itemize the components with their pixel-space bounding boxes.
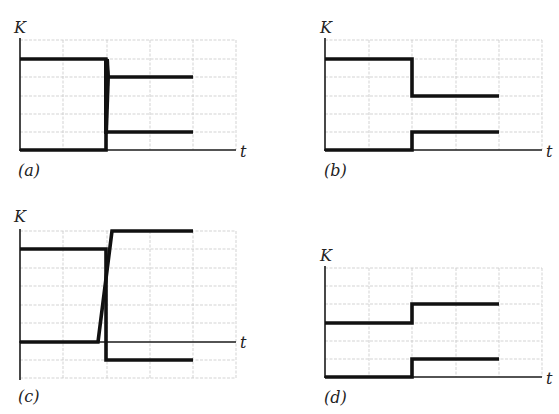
panel-a-transition-fill bbox=[104, 59, 110, 134]
panel-c-grid bbox=[20, 231, 236, 378]
panel-a-y-label: K bbox=[13, 18, 27, 37]
panel-a-curve-2 bbox=[20, 132, 193, 150]
panel-b: K t (b) bbox=[319, 18, 553, 180]
panel-a-caption: (a) bbox=[18, 161, 40, 180]
panel-c-x-label: t bbox=[240, 333, 247, 352]
panel-c-y-label: K bbox=[13, 207, 27, 226]
panel-b-caption: (b) bbox=[324, 161, 347, 180]
panel-d-curve-1 bbox=[325, 304, 499, 323]
panel-d-x-label: t bbox=[546, 369, 553, 388]
panel-d-curve-2 bbox=[325, 359, 499, 377]
panel-a: K t (a) bbox=[13, 18, 247, 180]
panel-b-curve-1 bbox=[325, 59, 499, 96]
panel-d-caption: (d) bbox=[324, 388, 347, 407]
panel-d-y-label: K bbox=[319, 246, 333, 265]
panel-c-caption: (c) bbox=[18, 387, 39, 406]
panel-b-y-label: K bbox=[319, 18, 333, 37]
panel-c: K t (c) bbox=[13, 207, 247, 406]
panel-b-curve-2 bbox=[325, 132, 499, 150]
kinetic-energy-figure: K t (a) K t (b) bbox=[0, 0, 559, 414]
panel-d: K t (d) bbox=[319, 246, 553, 407]
panel-a-x-label: t bbox=[240, 142, 247, 161]
panel-b-x-label: t bbox=[546, 142, 553, 161]
